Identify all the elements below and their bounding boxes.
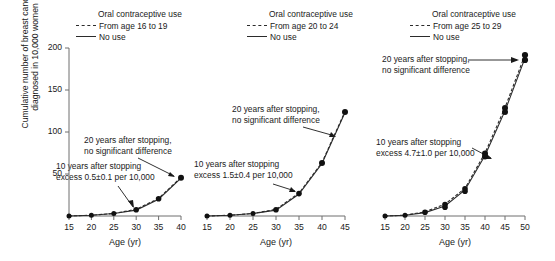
plot-area-panel-1 — [0, 0, 190, 261]
arrow-leaders-panel-1 — [118, 158, 175, 208]
chart-panel-3: Oral contraceptive use From age 25 to 29… — [368, 0, 555, 261]
plot-area-panel-3 — [368, 0, 555, 261]
chart-panel-1: Cumulative number of breast cancers diag… — [0, 0, 190, 261]
series-dashed-panel-1 — [69, 177, 181, 216]
chart-panel-2: Oral contraceptive use From age 20 to 24… — [185, 0, 370, 261]
data-point-markers-panel-3 — [383, 52, 529, 219]
series-solid-panel-3 — [385, 58, 525, 216]
series-solid-panel-1 — [69, 178, 181, 216]
plot-area-panel-2 — [185, 0, 370, 261]
figure-three-panel-breast-cancer-chart: Cumulative number of breast cancers diag… — [0, 0, 555, 261]
axes-panel-2 — [207, 216, 345, 220]
arrow-leaders-panel-3 — [468, 57, 519, 159]
data-point-markers-panel-2 — [205, 109, 349, 219]
arrow-leaders-panel-2 — [273, 127, 336, 192]
series-dashed-panel-3 — [385, 55, 525, 216]
